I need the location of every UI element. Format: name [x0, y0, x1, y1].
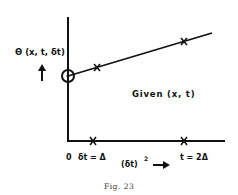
given-line	[68, 33, 212, 76]
right-arrow-icon	[153, 161, 170, 169]
up-arrow-icon	[38, 64, 46, 81]
x-tick-origin: 0	[66, 153, 72, 162]
figure-23-diagram: Θ (x, t, δt) Given (x, t) 0 δt = Δ t = 2…	[0, 0, 238, 195]
y-axis-label: Θ (x, t, δt)	[15, 47, 65, 57]
x-axis-exponent: 2	[144, 155, 148, 162]
intercept-dot	[67, 75, 70, 78]
x-axis-label: (δt)	[121, 160, 138, 169]
x-tick-delta: δt = Δ	[78, 153, 107, 162]
line-label: Given (x, t)	[132, 89, 195, 99]
x-tick-2delta: t = 2Δ	[180, 153, 209, 162]
figure-caption: Fig. 23	[104, 182, 134, 191]
